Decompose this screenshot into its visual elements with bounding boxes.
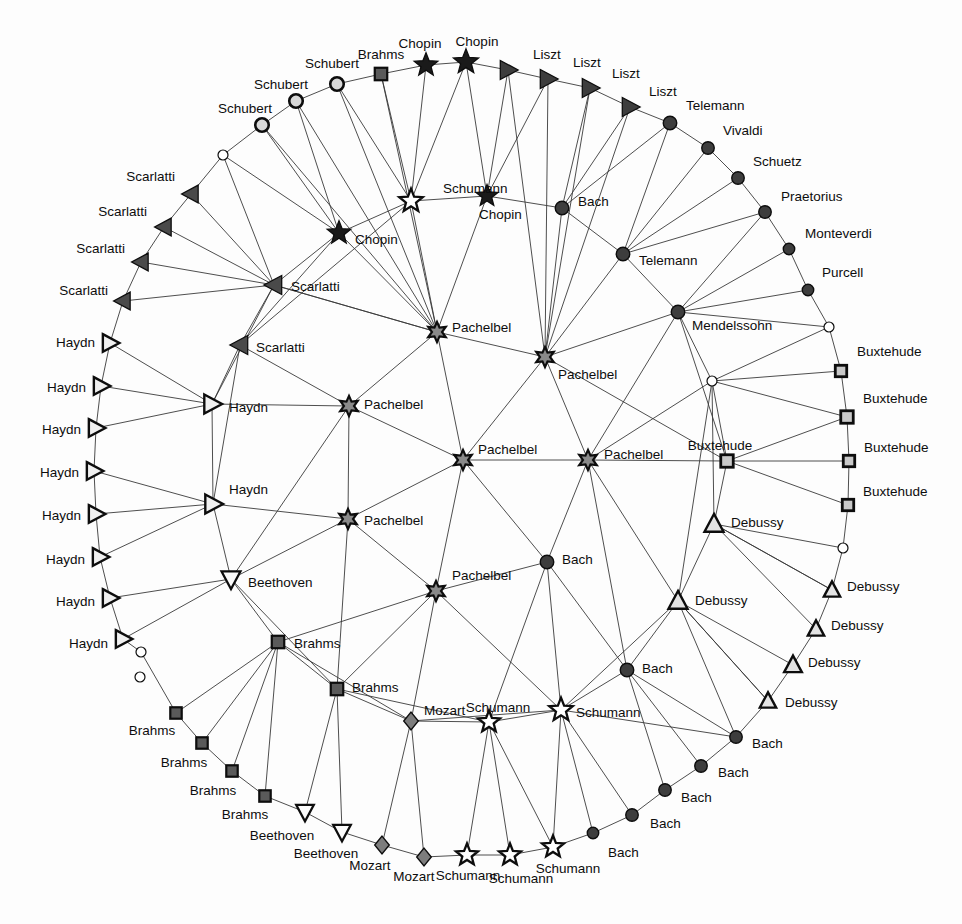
graph-node-scarlatti[interactable] [114,292,131,310]
graph-node-schumann[interactable] [499,844,521,865]
graph-node-buxtehude[interactable] [842,499,853,510]
graph-node-pachelbel[interactable] [340,396,357,416]
graph-node-brahms[interactable] [259,790,270,801]
graph-node-bach[interactable] [620,663,634,677]
graph-node-bach[interactable] [540,555,554,569]
graph-edge [789,249,808,290]
graph-node-bach[interactable] [730,731,742,743]
graph-node-bach[interactable] [587,827,598,838]
graph-node-brahms[interactable] [272,636,284,648]
graph-node-scarlatti[interactable] [264,275,282,294]
graph-node-mozart[interactable] [375,836,390,854]
graph-edge [213,504,231,579]
graph-edge [623,178,738,254]
graph-node-pachelbel[interactable] [339,509,356,529]
graph-node-haydn[interactable] [204,394,222,413]
graph-node-haydn[interactable] [116,630,133,648]
graph-node-schumann[interactable] [549,698,572,720]
node-label-chopin: Chopin [355,232,398,247]
graph-edge [337,84,411,201]
graph-node-buxtehude[interactable] [841,411,853,423]
graph-edge [305,689,337,812]
graph-node-vivaldi[interactable] [702,142,714,154]
graph-node-pachelbel[interactable] [427,581,444,601]
node-label-debussy: Debussy [731,515,784,530]
graph-node-beethoven[interactable] [333,825,351,842]
node-label-bach: Bach [752,736,783,751]
node-label-brahms: Brahms [294,636,341,651]
graph-node-schubert[interactable] [255,118,269,132]
graph-node-schubert[interactable] [330,77,344,91]
graph-node-haydn[interactable] [103,589,120,607]
node-label-purcell: Purcell [822,265,863,280]
graph-edge [411,721,489,722]
graph-node-liszt[interactable] [622,97,640,116]
graph-node-buxtehude[interactable] [835,365,846,376]
node-label-schumann: Schumann [576,705,641,720]
node-label-haydn: Haydn [46,552,85,567]
graph-node-bach[interactable] [555,201,569,215]
graph-edge [588,460,627,670]
graph-edge [489,562,547,722]
graph-node-brahms[interactable] [170,707,181,718]
graph-node-bach[interactable] [695,760,707,772]
network-graph-canvas: ChopinChopinBrahmsSchubertSchubertSchube… [0,0,962,924]
graph-node-pachelbel[interactable] [579,450,596,470]
graph-node-beethoven[interactable] [296,805,314,822]
graph-node-monteverdi[interactable] [783,243,794,254]
graph-node-haydn[interactable] [89,505,106,523]
graph-node-bach[interactable] [659,784,671,796]
graph-node-liszt[interactable] [582,78,600,97]
graph-node-debussy[interactable] [704,514,723,532]
graph-node-unlabeled[interactable] [136,647,146,657]
node-label-schubert: Schubert [305,56,359,71]
graph-edge [191,194,274,285]
graph-node-purcell[interactable] [802,284,813,295]
node-label-brahms: Brahms [358,47,405,62]
graph-node-brahms[interactable] [375,68,387,80]
node-label-mendelssohn: Mendelssohn [692,318,772,333]
graph-node-schubert[interactable] [289,94,303,108]
graph-node-haydn[interactable] [103,334,120,352]
graph-node-unlabeled[interactable] [218,150,228,160]
graph-edge [231,519,348,579]
graph-node-mendelssohn[interactable] [671,305,685,319]
graph-edge [436,591,561,710]
graph-node-unlabeled[interactable] [824,322,834,332]
graph-node-scarlatti[interactable] [155,218,172,236]
graph-node-unlabeled[interactable] [707,376,717,386]
node-label-scarlatti: Scarlatti [256,340,305,355]
graph-node-mozart[interactable] [404,712,419,730]
graph-node-haydn[interactable] [87,462,104,480]
graph-node-praetorius[interactable] [759,206,771,218]
graph-node-liszt[interactable] [540,69,558,88]
graph-node-unlabeled[interactable] [135,672,145,682]
graph-edge [712,381,847,417]
graph-node-mozart[interactable] [417,848,432,866]
graph-node-scarlatti[interactable] [182,185,199,203]
graph-node-telemann[interactable] [616,247,630,261]
graph-edge [212,404,213,504]
graph-node-bach[interactable] [626,809,638,821]
graph-node-debussy[interactable] [824,581,840,596]
graph-node-schumann[interactable] [542,836,564,857]
graph-node-telemann[interactable] [663,116,677,130]
graph-node-chopin[interactable] [454,49,479,73]
graph-node-buxtehude[interactable] [721,455,733,467]
graph-node-unlabeled[interactable] [838,543,848,553]
node-label-haydn: Haydn [47,380,86,395]
node-label-scarlatti: Scarlatti [59,283,108,298]
graph-edge [627,670,736,737]
node-label-pachelbel: Pachelbel [478,442,537,457]
graph-node-schuetz[interactable] [732,172,744,184]
graph-node-schumann[interactable] [456,844,478,865]
graph-node-chopin[interactable] [414,53,437,75]
graph-node-debussy[interactable] [668,591,687,609]
graph-node-scarlatti[interactable] [132,253,149,271]
graph-node-brahms[interactable] [196,737,207,748]
graph-node-debussy[interactable] [784,656,802,673]
graph-node-buxtehude[interactable] [843,455,854,466]
graph-node-brahms[interactable] [226,765,237,776]
node-label-pachelbel: Pachelbel [452,320,511,335]
graph-node-brahms[interactable] [331,683,343,695]
